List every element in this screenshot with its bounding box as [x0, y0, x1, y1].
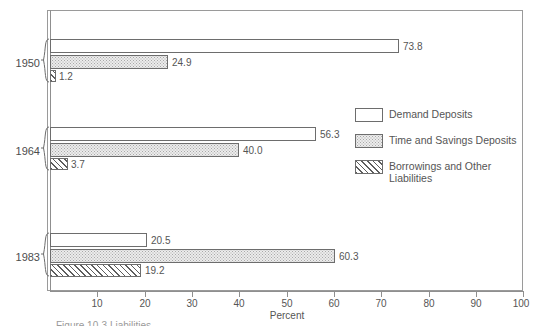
bar-1983-borrowings [50, 264, 141, 277]
x-axis-tick-70 [381, 291, 382, 297]
legend-label-demand-deposits: Demand Deposits [389, 108, 472, 120]
bar-value-1950-borrowings: 1.2 [59, 72, 73, 82]
bar-1983-time [50, 249, 335, 263]
bar-value-1983-time: 60.3 [339, 252, 358, 262]
x-axis-tick-30 [192, 291, 193, 297]
group-brace-1950 [41, 38, 49, 82]
bar-1950-time [50, 55, 168, 69]
x-axis-label-50: 50 [281, 299, 292, 309]
bar-1950-borrowings [50, 70, 56, 82]
legend-swatch-demand-deposits [355, 108, 383, 122]
figure-caption: Figure 10-3 Liabilities [56, 320, 526, 326]
x-axis-tick-100 [523, 291, 524, 297]
group-brace-1983 [41, 232, 49, 276]
bar-value-1964-demand: 56.3 [320, 130, 339, 140]
x-axis-tick-50 [287, 291, 288, 297]
bar-value-1983-borrowings: 19.2 [145, 266, 164, 276]
x-axis-label-80: 80 [423, 299, 434, 309]
bar-value-1964-time: 40.0 [243, 146, 262, 156]
group-label-1964: 1964 [0, 146, 40, 157]
legend-swatch-time-and-savings-deposits [355, 134, 383, 148]
x-axis-tick-10 [97, 291, 98, 297]
bar-value-1983-demand: 20.5 [151, 236, 170, 246]
x-axis-tick-40 [239, 291, 240, 297]
legend-swatch-borrowings-and-other-liabilities [355, 160, 383, 174]
bar-1964-borrowings [50, 158, 68, 170]
legend-label-borrowings-and-other-liabilities: Borrowings and Other Liabilities [389, 160, 517, 184]
bar-value-1964-borrowings: 3.7 [71, 160, 85, 170]
chart-legend: Demand Deposits Time and Savings Deposit… [355, 108, 520, 195]
chart-figure: 1950 73.8 24.9 1.2 1964 56.3 40.0 3.7 19… [0, 0, 543, 326]
x-axis-tick-20 [145, 291, 146, 297]
x-axis-tick-60 [334, 291, 335, 297]
group-label-1950: 1950 [0, 58, 40, 69]
bar-value-1950-demand: 73.8 [403, 42, 422, 52]
bar-1964-demand [50, 127, 316, 141]
x-axis-label-70: 70 [375, 299, 386, 309]
bar-1983-demand [50, 233, 147, 247]
legend-item-borrowings-and-other-liabilities: Borrowings and Other Liabilities [355, 160, 520, 184]
x-axis-label-30: 30 [186, 299, 197, 309]
x-axis-label-20: 20 [139, 299, 150, 309]
x-axis-label-40: 40 [233, 299, 244, 309]
x-axis-tick-90 [476, 291, 477, 297]
bar-1964-time [50, 143, 239, 157]
bar-1950-demand [50, 39, 399, 53]
x-axis-tick-80 [429, 291, 430, 297]
x-axis-label-60: 60 [328, 299, 339, 309]
x-axis-label-90: 90 [470, 299, 481, 309]
legend-item-demand-deposits: Demand Deposits [355, 108, 520, 123]
x-axis-label-10: 10 [91, 299, 102, 309]
group-brace-1964 [41, 126, 49, 170]
group-label-1983: 1983 [0, 252, 40, 263]
bar-value-1950-time: 24.9 [172, 58, 191, 68]
legend-label-time-and-savings-deposits: Time and Savings Deposits [389, 134, 516, 146]
legend-item-time-and-savings-deposits: Time and Savings Deposits [355, 134, 520, 149]
x-axis-label-100: 100 [513, 299, 530, 309]
